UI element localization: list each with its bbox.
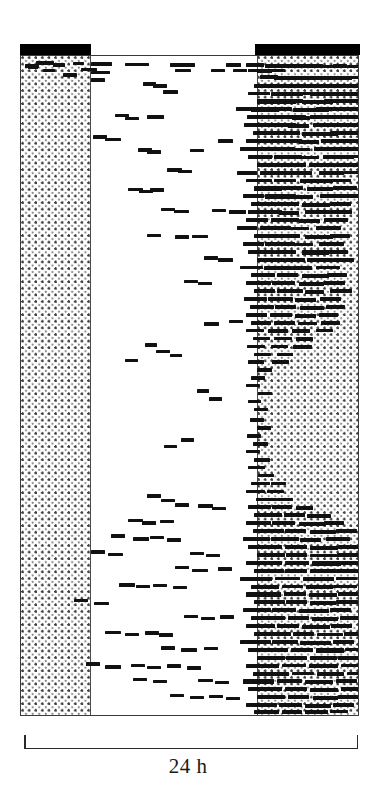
- activity-mark: [91, 78, 105, 82]
- activity-mark: [201, 617, 215, 620]
- activity-mark: [333, 64, 347, 68]
- activity-mark: [324, 281, 345, 285]
- activity-mark: [316, 226, 341, 230]
- activity-mark: [336, 679, 357, 683]
- activity-mark: [317, 672, 344, 676]
- activity-mark: [285, 569, 307, 573]
- activity-mark: [28, 66, 38, 69]
- activity-mark: [291, 171, 312, 175]
- activity-mark: [150, 188, 164, 191]
- activity-mark: [254, 569, 283, 573]
- activity-mark: [305, 235, 333, 239]
- activity-mark: [254, 458, 269, 462]
- activity-mark: [272, 608, 296, 612]
- activity-mark: [220, 615, 234, 618]
- activity-mark: [173, 586, 187, 589]
- activity-mark: [243, 537, 270, 541]
- activity-mark: [145, 631, 159, 634]
- activity-mark: [292, 266, 312, 270]
- activity-mark: [254, 408, 268, 411]
- activity-mark: [310, 530, 335, 534]
- activity-mark: [175, 503, 189, 506]
- activity-mark: [333, 258, 354, 262]
- activity-mark: [248, 545, 282, 549]
- activity-mark: [271, 345, 288, 349]
- activity-mark: [330, 202, 351, 206]
- activity-mark: [317, 633, 342, 637]
- activity-mark: [128, 519, 143, 523]
- activity-mark: [282, 664, 306, 668]
- activity-mark: [248, 155, 272, 159]
- activity-mark: [246, 490, 266, 494]
- activity-mark: [251, 376, 265, 379]
- activity-mark: [341, 99, 359, 103]
- activity-mark: [243, 242, 264, 246]
- activity-mark: [337, 553, 359, 557]
- activity-mark: [257, 258, 285, 262]
- activity-mark: [291, 227, 309, 231]
- activity-mark: [147, 115, 164, 119]
- activity-mark: [256, 498, 277, 502]
- activity-mark: [344, 171, 359, 175]
- activity-mark: [209, 397, 222, 400]
- activity-mark: [233, 69, 247, 73]
- activity-mark: [215, 681, 229, 684]
- activity-mark: [244, 297, 266, 301]
- activity-mark: [285, 561, 309, 565]
- activity-mark: [94, 602, 109, 606]
- activity-mark: [175, 566, 189, 569]
- activity-mark: [248, 687, 282, 691]
- activity-mark: [181, 648, 196, 652]
- activity-mark: [243, 194, 264, 198]
- activity-mark: [246, 561, 283, 565]
- activity-mark: [246, 313, 267, 317]
- activity-mark: [253, 442, 268, 446]
- activity-mark: [190, 149, 204, 152]
- activity-mark: [324, 218, 348, 222]
- activity-mark: [229, 320, 243, 323]
- activity-mark: [159, 633, 173, 636]
- activity-mark: [254, 600, 285, 604]
- phase-divider-left: [90, 56, 91, 715]
- activity-mark: [299, 140, 319, 144]
- activity-mark: [316, 107, 338, 111]
- activity-mark: [333, 703, 354, 707]
- activity-mark: [271, 482, 286, 486]
- dark-phase-shading-left: [21, 56, 90, 715]
- activity-mark: [338, 147, 359, 151]
- activity-mark: [254, 710, 279, 714]
- activity-mark: [310, 688, 338, 692]
- activity-mark: [253, 337, 270, 341]
- activity-mark: [316, 329, 333, 333]
- activity-mark: [258, 392, 272, 395]
- activity-mark: [237, 171, 257, 175]
- activity-mark: [321, 321, 339, 325]
- activity-mark: [211, 69, 225, 72]
- activity-mark: [265, 242, 294, 246]
- activity-mark: [250, 418, 264, 421]
- activity-mark: [303, 577, 334, 581]
- activity-mark: [133, 63, 150, 67]
- activity-mark: [247, 434, 261, 437]
- activity-mark: [251, 585, 279, 589]
- activity-mark: [192, 569, 207, 573]
- activity-mark: [240, 147, 261, 151]
- activity-mark: [246, 450, 260, 453]
- activity-mark: [296, 506, 313, 510]
- activity-mark: [300, 538, 321, 542]
- activity-mark: [282, 585, 303, 589]
- activity-mark: [270, 313, 292, 317]
- activity-mark: [251, 202, 276, 206]
- activity-mark: [248, 92, 269, 96]
- activity-mark: [336, 577, 357, 581]
- activity-mark: [293, 632, 314, 636]
- activity-mark: [248, 466, 265, 470]
- activity-mark: [190, 552, 204, 555]
- activity-mark: [275, 305, 296, 309]
- activity-mark: [330, 210, 352, 214]
- activity-mark: [257, 368, 272, 372]
- activity-mark: [226, 63, 241, 67]
- activity-mark: [333, 186, 357, 190]
- bracket-span-line: [24, 748, 358, 750]
- activity-mark: [147, 666, 161, 669]
